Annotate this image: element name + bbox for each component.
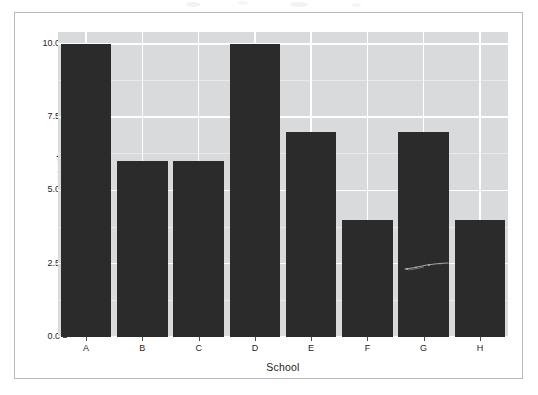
plot-panel <box>58 32 508 337</box>
bar-E <box>286 132 337 337</box>
x-tick-mark-D <box>255 337 256 341</box>
x-axis-tick-marks <box>58 337 508 342</box>
y-tick-label-10.0: 10.0 <box>26 38 60 48</box>
x-tick-mark-F <box>367 337 368 341</box>
x-tick-mark-A <box>86 337 87 341</box>
bar-F <box>342 220 393 337</box>
bar-A <box>61 44 112 337</box>
x-tick-mark-H <box>480 337 481 341</box>
noise-speck <box>290 2 308 7</box>
x-tick-label-A: A <box>71 343 101 353</box>
bar-B <box>117 161 168 337</box>
y-tick-label-5.0: 5.0 <box>26 184 60 194</box>
noise-speck <box>238 1 248 5</box>
bar-C <box>173 161 224 337</box>
x-tick-mark-G <box>424 337 425 341</box>
x-tick-label-G: G <box>409 343 439 353</box>
y-tick-label-2.5: 2.5 <box>26 258 60 268</box>
x-tick-label-C: C <box>184 343 214 353</box>
x-tick-label-H: H <box>465 343 495 353</box>
noise-speck <box>186 2 200 7</box>
x-axis-tick-labels: ABCDEFGH <box>58 343 508 359</box>
y-axis-tick-labels: 0.02.55.07.510.0 <box>26 12 60 381</box>
x-axis-title: School <box>58 361 508 373</box>
x-tick-label-D: D <box>240 343 270 353</box>
bar-H <box>455 220 506 337</box>
noise-speck <box>352 3 361 7</box>
x-tick-label-B: B <box>127 343 157 353</box>
x-tick-mark-C <box>199 337 200 341</box>
scan-noise-artifact <box>0 0 538 12</box>
bar-chart-figure: count 0.02.55.07.510.0 ABCDEFGH School <box>14 12 525 381</box>
bar-D <box>230 44 281 337</box>
y-tick-label-7.5: 7.5 <box>26 111 60 121</box>
y-tick-label-0.0: 0.0 <box>26 331 60 341</box>
bar-G <box>398 132 449 337</box>
x-tick-mark-B <box>142 337 143 341</box>
x-tick-mark-E <box>311 337 312 341</box>
bar-series <box>58 32 508 337</box>
x-tick-label-F: F <box>352 343 382 353</box>
x-tick-label-E: E <box>296 343 326 353</box>
